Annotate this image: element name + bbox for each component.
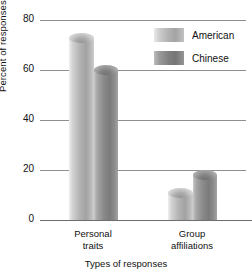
category-label-group-affiliations: Group affiliations: [147, 228, 237, 251]
bar-chart: Percent of responses 020406080 Personal …: [0, 0, 252, 276]
category-label-line-1: Group: [147, 228, 237, 240]
category-label-line-2: traits: [48, 240, 138, 252]
bar-body: [69, 38, 94, 221]
chinese-swatch-icon: [154, 51, 184, 65]
x-axis-title: Types of responses: [0, 258, 252, 269]
gridline-80: [40, 20, 246, 21]
category-label-personal-traits: Personal traits: [48, 228, 138, 251]
y-tick-label-0: 0: [6, 214, 34, 224]
bar-chinese-group-affiliations: [193, 170, 218, 220]
bar-american-personal-traits: [69, 33, 94, 221]
category-label-line-2: affiliations: [147, 240, 237, 252]
bar-body: [94, 70, 119, 220]
bar-cap: [69, 33, 94, 43]
bar-cap: [193, 170, 218, 180]
y-tick-label-40: 40: [6, 114, 34, 124]
bar-cap: [94, 65, 119, 75]
american-swatch-icon: [154, 28, 184, 42]
bar-chinese-personal-traits: [94, 65, 119, 220]
legend: American Chinese: [154, 26, 234, 72]
legend-item-american: American: [154, 26, 234, 44]
bar-american-group-affiliations: [168, 188, 193, 221]
bar-cap: [168, 188, 193, 198]
y-tick-label-80: 80: [6, 14, 34, 24]
category-label-line-1: Personal: [48, 228, 138, 240]
axis-baseline: [40, 220, 252, 221]
legend-label-american: American: [192, 30, 234, 41]
y-tick-label-20: 20: [6, 164, 34, 174]
bar-body: [193, 175, 218, 220]
legend-label-chinese: Chinese: [192, 53, 229, 64]
legend-item-chinese: Chinese: [154, 49, 234, 67]
y-tick-label-60: 60: [6, 64, 34, 74]
